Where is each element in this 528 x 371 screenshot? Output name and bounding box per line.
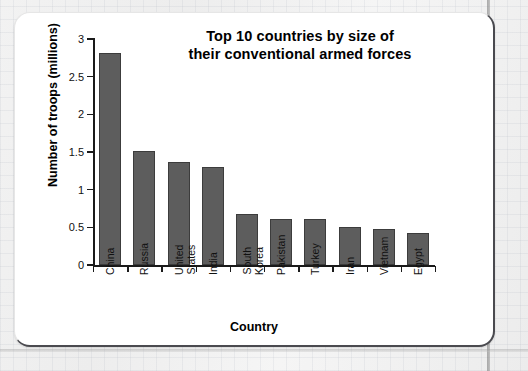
x-axis-category-label: Pakistan bbox=[275, 235, 287, 275]
category-label-line: Russia bbox=[138, 243, 150, 275]
y-axis-tick bbox=[87, 114, 93, 115]
y-axis-tick bbox=[87, 227, 93, 228]
y-axis-tick-label: 2.5 bbox=[69, 71, 84, 83]
x-axis-tick bbox=[298, 266, 299, 272]
chart-card: Top 10 countries by size of their conven… bbox=[14, 12, 495, 347]
x-axis-tick bbox=[161, 266, 162, 272]
bar bbox=[99, 53, 121, 265]
screenshot-scene: Top 10 countries by size of their conven… bbox=[0, 0, 528, 371]
category-label-line: Korea bbox=[253, 247, 265, 275]
x-axis-tick bbox=[435, 266, 436, 272]
category-label-line: States bbox=[185, 245, 197, 275]
x-axis-category-label: China bbox=[104, 248, 116, 275]
y-axis-line bbox=[93, 38, 95, 266]
bar-chart: Top 10 countries by size of their conven… bbox=[15, 13, 493, 345]
category-label-line: India bbox=[207, 252, 219, 275]
x-axis-category-label: Russia bbox=[138, 243, 150, 275]
y-axis-tick-label: 1 bbox=[78, 184, 84, 196]
y-axis-tick-label: 1.5 bbox=[69, 146, 84, 158]
x-axis-category-label: SouthKorea bbox=[241, 247, 265, 275]
category-label-line: China bbox=[104, 248, 116, 275]
y-axis-tick bbox=[87, 76, 93, 77]
x-axis-tick bbox=[230, 266, 231, 272]
y-axis-tick bbox=[87, 151, 93, 152]
x-axis-label: Country bbox=[15, 320, 493, 334]
x-axis-category-label: Iran bbox=[344, 257, 356, 275]
x-axis-category-label: UnitedStates bbox=[173, 245, 197, 275]
x-axis-tick bbox=[401, 266, 402, 272]
page-edge-bottom bbox=[0, 349, 528, 352]
y-axis-tick-label: 2 bbox=[78, 108, 84, 120]
category-label-line: South bbox=[241, 247, 253, 274]
category-label-line: Turkey bbox=[309, 243, 321, 275]
x-axis-category-label: Egypt bbox=[412, 248, 424, 275]
bar bbox=[202, 167, 224, 265]
category-label-line: Egypt bbox=[412, 248, 424, 275]
x-axis-tick bbox=[127, 266, 128, 272]
category-label-line: United bbox=[173, 245, 185, 275]
category-label-line: Pakistan bbox=[275, 235, 287, 275]
x-axis-tick bbox=[367, 266, 368, 272]
x-axis-tick bbox=[93, 266, 94, 272]
x-axis-category-label: Turkey bbox=[309, 243, 321, 275]
x-axis-category-label: India bbox=[207, 252, 219, 275]
x-axis-category-label: Vietnam bbox=[378, 237, 390, 275]
category-label-line: Iran bbox=[344, 257, 356, 275]
y-axis-label: Number of troops (millions) bbox=[46, 5, 60, 205]
y-axis-tick-label: 3 bbox=[78, 33, 84, 45]
x-axis-tick bbox=[332, 266, 333, 272]
y-axis-tick bbox=[87, 189, 93, 190]
plot-area: 00.511.522.53 ChinaRussiaUnitedStatesInd… bbox=[93, 39, 435, 265]
y-axis-tick bbox=[87, 38, 93, 39]
category-label-line: Vietnam bbox=[378, 237, 390, 275]
y-axis-tick-label: 0.5 bbox=[69, 221, 84, 233]
y-axis-tick-label: 0 bbox=[78, 259, 84, 271]
